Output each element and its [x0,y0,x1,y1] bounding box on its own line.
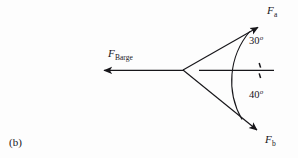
angle-upper-value: 30 [249,35,260,46]
angle-arc [232,32,250,120]
force-a-symbol: F [267,4,274,16]
force-b-symbol: F [265,133,272,145]
arc-tick-lower [259,73,260,78]
force-a-subscript: a [274,10,277,19]
arc-tick-upper [259,63,260,68]
angle-lower-label: 40o [249,90,263,101]
degree-icon: o [260,88,264,96]
force-a-label: Fa [267,5,277,16]
force-b-label: Fb [265,134,275,145]
angle-lower-value: 40 [249,89,260,100]
force-a-vector [183,27,258,70]
force-b-subscript: b [272,139,276,148]
force-barge-subscript: Barge [115,53,133,62]
angle-upper-label: 30o [249,36,263,47]
force-diagram-figure: Fa Fb FBarge 30o 40o (b) [0,0,298,158]
force-barge-symbol: F [108,47,115,59]
degree-icon: o [260,34,264,42]
vector-diagram-canvas [0,0,298,158]
force-b-vector [183,70,257,130]
panel-label: (b) [9,137,22,148]
force-barge-label: FBarge [108,48,133,59]
